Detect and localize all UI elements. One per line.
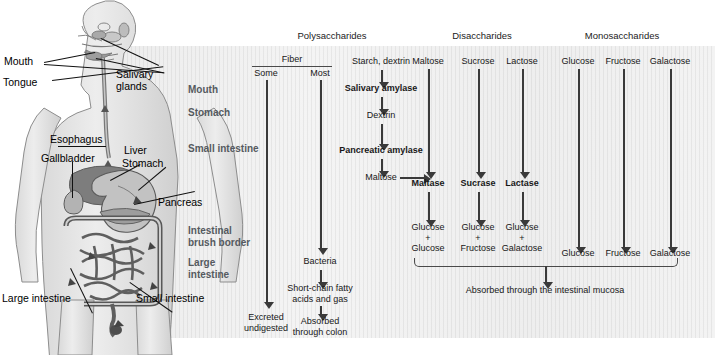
- starch-maltose-label: Maltose: [365, 172, 397, 183]
- fiber-some-label: Some: [254, 68, 278, 79]
- lactase-products: Glucose + Galactose: [502, 222, 543, 254]
- maltase-to-products-arrow: [428, 192, 430, 220]
- anatomy-label-salivary-glands: Salivary glands: [116, 68, 153, 92]
- lactase-to-products-arrow: [522, 192, 524, 220]
- group-header-disaccharides: Disaccharides: [452, 31, 512, 42]
- row-label-large-intestine: Large intestine: [188, 257, 229, 281]
- anatomy-label-mouth: Mouth: [4, 55, 33, 67]
- brush-border-line-1: Intestinal: [188, 225, 250, 237]
- starch-source-label: Starch, dextrin: [352, 56, 410, 67]
- sucrase-product-2: Fructose: [460, 243, 495, 254]
- absorbed-colon-line-1: Absorbed: [293, 316, 348, 327]
- sucrase-to-products-arrow: [478, 192, 480, 220]
- fiber-most-label: Most: [310, 68, 330, 79]
- absorption-arrow: [545, 266, 547, 282]
- group-header-polysaccharides: Polysaccharides: [297, 31, 366, 42]
- bacteria-label: Bacteria: [303, 256, 336, 267]
- monosaccharide-substrate-fructose: Fructose: [605, 56, 640, 67]
- enzyme-lactase: Lactase: [505, 178, 539, 189]
- dextrin-label: Dextrin: [367, 110, 396, 121]
- anatomy-label-gallbladder: Gallbladder: [41, 152, 95, 164]
- maltase-product-1: Glucose: [411, 222, 444, 233]
- salivary-amylase-label: Salivary amylase: [345, 83, 418, 94]
- absorption-label: Absorbed through the intestinal mucosa: [466, 285, 625, 296]
- lactase-product-1: Glucose: [502, 222, 543, 233]
- fiber-some-arrow: [266, 80, 268, 302]
- enzyme-maltase: Maltase: [411, 178, 444, 189]
- group-header-monosaccharides: Monosaccharides: [585, 31, 659, 42]
- anatomy-illustration: Mouth Tongue Salivary glands Esophagus G…: [0, 0, 260, 355]
- excreted-line-1: Excreted: [244, 312, 288, 323]
- sucrase-products: Glucose + Fructose: [460, 222, 495, 254]
- pancreatic-amylase-label: Pancreatic amylase: [339, 145, 423, 156]
- row-label-mouth: Mouth: [188, 84, 218, 96]
- monosaccharide-product-fructose: Fructose: [605, 248, 640, 259]
- row-label-small-intestine: Small intestine: [188, 143, 259, 155]
- pancreatic-amylase-to-maltose-arrow: [381, 159, 383, 171]
- lactase-product-2: Galactose: [502, 243, 543, 254]
- leader-gallbladder: [72, 162, 73, 198]
- maltase-plus: +: [411, 233, 444, 244]
- salivary-glands-line-2: glands: [116, 80, 153, 92]
- anatomy-label-large-intestine: Large intestine: [2, 292, 71, 304]
- fiber-bracket: [252, 66, 332, 67]
- galactose-column-arrow: [670, 69, 672, 247]
- lactose-column-arrow: [522, 69, 524, 172]
- large-intestine-line-2: intestine: [188, 269, 229, 281]
- glucose-column-arrow: [578, 69, 580, 247]
- sucrase-product-1: Glucose: [460, 222, 495, 233]
- sucrase-plus: +: [460, 233, 495, 244]
- monosaccharide-product-glucose: Glucose: [561, 248, 594, 259]
- fiber-header: Fiber: [282, 54, 303, 65]
- anatomy-label-tongue: Tongue: [3, 76, 37, 88]
- anatomy-label-small-intestine: Small intestine: [136, 292, 204, 304]
- row-label-stomach: Stomach: [188, 107, 230, 119]
- monosaccharide-substrate-galactose: Galactose: [650, 56, 691, 67]
- anatomy-label-esophagus: Esophagus: [50, 133, 103, 145]
- row-label-intestinal-brush-border: Intestinal brush border: [188, 225, 250, 249]
- bacteria-to-scfa-arrow: [320, 270, 322, 282]
- brush-border-line-2: brush border: [188, 237, 250, 249]
- disaccharide-substrate-sucrose: Sucrose: [461, 56, 494, 67]
- anatomy-label-stomach: Stomach: [122, 157, 163, 169]
- large-intestine-line-1: Large: [188, 257, 229, 269]
- maltase-products: Glucose + Glucose: [411, 222, 444, 254]
- scfa-line-1: Short-chain fatty: [287, 283, 353, 294]
- scfa-to-colon-arrow: [320, 306, 322, 314]
- disaccharide-substrate-lactose: Lactose: [506, 56, 538, 67]
- leader-esophagus-h: [58, 146, 106, 147]
- fiber-some-endpoint: Excreted undigested: [244, 312, 288, 333]
- enzyme-sucrase: Sucrase: [460, 178, 495, 189]
- monosaccharide-product-galactose: Galactose: [650, 248, 691, 259]
- scfa-line-2: acids and gas: [287, 294, 353, 305]
- scfa-label: Short-chain fatty acids and gas: [287, 283, 353, 304]
- sucrose-column-arrow: [478, 69, 480, 172]
- salivary-glands-line-1: Salivary: [116, 68, 153, 80]
- monosaccharide-substrate-glucose: Glucose: [561, 56, 594, 67]
- salivary-amylase-to-dextrin-arrow: [381, 97, 383, 109]
- maltase-product-2: Glucose: [411, 243, 444, 254]
- fiber-most-arrow: [320, 80, 322, 248]
- anatomy-label-pancreas: Pancreas: [158, 196, 202, 208]
- dextrin-to-pancreatic-amylase-arrow: [381, 124, 383, 144]
- fructose-column-arrow: [623, 69, 625, 247]
- anatomy-label-liver: Liver: [124, 144, 147, 156]
- absorbed-colon-line-2: through colon: [293, 327, 348, 338]
- lactase-plus: +: [502, 233, 543, 244]
- disaccharide-substrate-maltose: Maltose: [412, 56, 444, 67]
- fiber-most-endpoint: Absorbed through colon: [293, 316, 348, 337]
- maltose-column-arrow: [428, 69, 430, 172]
- starch-to-salivary-amylase-arrow: [381, 70, 383, 82]
- excreted-line-2: undigested: [244, 323, 288, 334]
